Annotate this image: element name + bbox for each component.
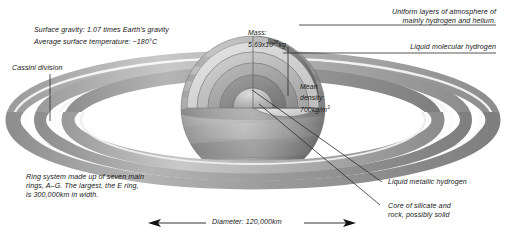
label-mass-value: 5.69x1026kg <box>248 40 286 50</box>
label-atmosphere: Uniform layers of atmosphere of mainly h… <box>296 8 496 26</box>
label-liquid-metallic-hydrogen: Liquid metallic hydrogen <box>388 178 467 187</box>
mean-density-exponent: 3 <box>327 105 330 110</box>
label-mean-density-line3: 700kg/m3 <box>300 105 330 115</box>
mean-density-base: 700kg/m <box>300 106 327 113</box>
mass-value-unit: kg <box>279 41 286 48</box>
label-mean-density-line1: Mean <box>300 83 318 92</box>
label-diameter: Diameter: 120,000km <box>212 218 282 227</box>
label-liquid-molecular-hydrogen: Liquid molecular hydrogen <box>296 43 496 52</box>
label-ring-system: Ring system made up of seven main rings,… <box>26 173 192 200</box>
label-mean-density-line2: density: <box>300 94 325 103</box>
label-cassini-division: Cassini division <box>12 64 63 73</box>
label-core: Core of silicate and rock, possibly soli… <box>388 202 498 220</box>
saturn-diagram-figure: Surface gravity: 1.07 times Earth's grav… <box>0 0 506 241</box>
mass-value-base: 5.69x10 <box>248 41 273 48</box>
label-average-temperature: Average surface temperature: −180°C <box>34 38 157 47</box>
label-surface-gravity: Surface gravity: 1.07 times Earth's grav… <box>34 26 169 35</box>
label-mass-title: Mass: <box>248 29 267 38</box>
